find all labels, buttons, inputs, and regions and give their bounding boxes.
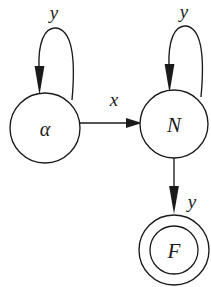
N-self-loop-label: y: [178, 1, 189, 22]
alpha-self-loop-label: y: [48, 2, 59, 23]
state-alpha-label: α: [40, 118, 51, 140]
N-to-F-label: y: [186, 191, 197, 212]
N-self-loop-arrowhead: [165, 64, 175, 93]
state-F[interactable]: F: [139, 215, 209, 285]
state-alpha[interactable]: α: [10, 93, 80, 163]
transition-N-to-F: y: [169, 158, 197, 214]
state-diagram: y y x y α N: [0, 0, 211, 287]
N-self-loop-arc: [169, 26, 203, 97]
state-N-label: N: [166, 113, 182, 137]
N-to-F-arrowhead: [169, 186, 179, 214]
transition-alpha-to-N: x: [80, 89, 142, 129]
alpha-to-N-label: x: [109, 89, 119, 110]
transition-alpha-self-loop: y: [35, 2, 74, 101]
automaton-canvas: y y x y α N: [0, 0, 211, 287]
alpha-self-loop-arrowhead: [35, 66, 45, 95]
state-F-label: F: [167, 239, 181, 263]
alpha-self-loop-arc: [39, 28, 74, 100]
state-N[interactable]: N: [140, 90, 208, 158]
transition-N-self-loop: y: [165, 1, 203, 98]
